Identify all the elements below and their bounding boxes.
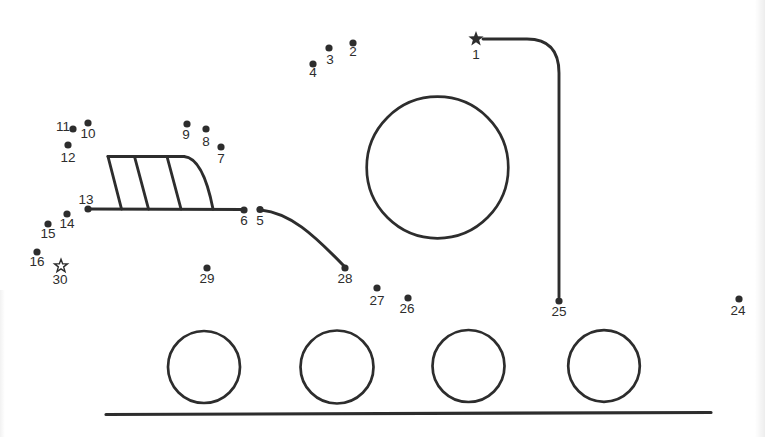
dot-label-13: 13 — [78, 192, 93, 207]
dot-8 — [202, 125, 209, 132]
dot-label-15: 15 — [40, 226, 55, 241]
dot-label-8: 8 — [202, 134, 210, 149]
dot-7 — [217, 143, 224, 150]
dot-label-16: 16 — [29, 254, 44, 269]
dot-label-2: 2 — [349, 44, 357, 59]
start-label: 1 — [472, 47, 480, 62]
dot-3 — [325, 44, 332, 51]
crane-line-1-to-25 — [483, 39, 559, 297]
ladder-rung-2 — [167, 157, 181, 210]
dot-label-11: 11 — [56, 119, 70, 134]
dot-27 — [373, 284, 380, 291]
dot-label-27: 27 — [369, 293, 384, 308]
dot-label-24: 24 — [730, 303, 746, 318]
wheel-1-circle — [168, 331, 240, 403]
dot-label-3: 3 — [326, 52, 334, 67]
dot-label-26: 26 — [399, 301, 414, 316]
dot-label-7: 7 — [217, 151, 225, 166]
engine-circle — [367, 97, 509, 239]
dot-label-29: 29 — [199, 271, 214, 286]
ladder-base-13-to-6 — [89, 209, 244, 210]
wheel-4-circle — [568, 330, 640, 402]
ladder-right-curve — [184, 157, 213, 210]
wheel-2-circle — [301, 331, 374, 404]
dot-12 — [64, 141, 71, 148]
puzzle-canvas: 2345678910111213141516242526272829130 — [0, 0, 765, 437]
wheel-3-circle — [433, 330, 505, 402]
dot-label-9: 9 — [182, 127, 190, 142]
ground-line — [106, 413, 711, 415]
worksheet-page: 2345678910111213141516242526272829130 — [0, 0, 765, 437]
dot-label-14: 14 — [59, 216, 75, 231]
dot-label-6: 6 — [240, 213, 248, 228]
dot-label-12: 12 — [60, 150, 75, 165]
finish-label: 30 — [52, 272, 67, 287]
dot-24 — [735, 295, 742, 302]
chute-curve-5-to-28 — [261, 210, 344, 266]
start-star-icon — [468, 31, 483, 45]
dot-label-4: 4 — [309, 65, 317, 80]
dot-label-25: 25 — [551, 304, 566, 319]
dot-label-5: 5 — [256, 213, 264, 228]
ladder-rung-1 — [135, 157, 149, 210]
dot-11 — [69, 125, 76, 132]
dot-label-28: 28 — [337, 271, 352, 286]
finish-star-icon — [55, 259, 68, 271]
ladder-left-edge — [108, 157, 122, 210]
dot-label-10: 10 — [80, 126, 95, 141]
